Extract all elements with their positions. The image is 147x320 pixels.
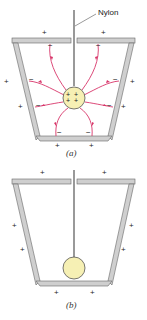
neutral-sphere-b [63, 257, 85, 279]
inner-charge: − [48, 41, 53, 50]
diagram-canvas [0, 0, 147, 320]
caption-b: (b) [66, 300, 77, 310]
inner-charge: − [113, 75, 118, 84]
outer-charge: + [54, 288, 59, 297]
nylon-label: Nylon [98, 8, 118, 17]
outer-charge: + [129, 221, 134, 230]
outer-charge: + [42, 28, 47, 37]
outer-charge: + [90, 288, 95, 297]
caption-a: (a) [66, 148, 77, 158]
outer-charge: + [102, 168, 107, 177]
panel-b [12, 170, 135, 286]
outer-charge: + [55, 141, 60, 150]
inner-charge: − [36, 101, 41, 110]
inner-charge: − [107, 101, 112, 110]
sphere-charge-label: + + + + [66, 92, 84, 104]
outer-charge: + [101, 28, 106, 37]
inner-charge: − [57, 128, 62, 137]
inner-charge: − [86, 128, 91, 137]
outer-charge: + [12, 221, 17, 230]
outer-charge: + [89, 141, 94, 150]
outer-charge: + [121, 102, 126, 111]
outer-charge: + [121, 245, 126, 254]
outer-charge: + [4, 77, 9, 86]
leader-line [75, 14, 96, 26]
outer-charge: + [20, 245, 25, 254]
outer-charge: + [40, 168, 45, 177]
outer-charge: + [18, 102, 23, 111]
outer-charge: + [130, 77, 135, 86]
inner-charge: − [96, 41, 101, 50]
inner-charge: − [29, 75, 34, 84]
